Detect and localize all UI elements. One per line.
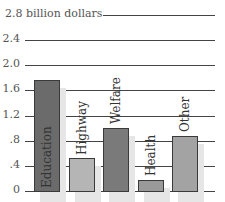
y-tick-label: 0 [13, 184, 20, 196]
bar-chart: 0.4.81.21.62.02.42.8 billion dollarsEduc… [0, 0, 225, 202]
bar-label-welfare: Welfare [110, 77, 123, 124]
y-tick-label: 1.6 [3, 83, 21, 95]
gridline [103, 15, 215, 16]
y-tick-label: 2.4 [3, 33, 21, 45]
bar-health [138, 180, 164, 192]
bar-label-health: Health [145, 135, 158, 176]
bar-label-highway: Highway [76, 101, 89, 155]
bar-label-other: Other [179, 97, 192, 132]
y-tick-label: 2.0 [3, 58, 21, 70]
y-tick-label: 1.2 [3, 109, 21, 121]
bar-welfare [103, 128, 129, 192]
y-tick-label: 2.8 billion dollars [5, 8, 102, 20]
gridline [25, 40, 215, 41]
gridline [25, 65, 215, 66]
bar-label-education: Education [41, 126, 54, 188]
y-tick-label: .8 [10, 134, 21, 146]
bar-highway [69, 158, 95, 192]
bar-other [172, 136, 198, 192]
y-tick-label: .4 [10, 159, 21, 171]
